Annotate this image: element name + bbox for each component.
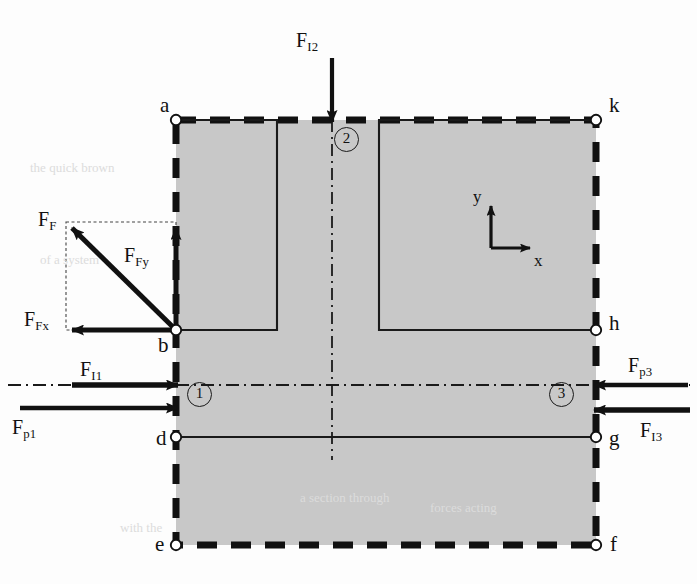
force-base: F [12,416,23,438]
node-k [591,115,601,125]
force-sub: p1 [23,427,36,441]
node-f [591,540,601,550]
force-base: F [38,208,49,230]
node-g [591,432,601,442]
force-label-Fp1: Fp1 [12,417,37,437]
free-body-diagram: the quick brown of a system a section th… [0,0,697,584]
ghost-text: forces acting [430,500,497,516]
force-label-FI2: FI2 [296,30,318,50]
axis-label-y: y [473,188,482,205]
section-marker-3: 3 [549,382,574,407]
force-label-Fp3: Fp3 [628,355,653,375]
node-b [171,325,181,335]
node-label-e: e [155,534,164,555]
force-base: F [296,29,307,51]
node-a [171,115,181,125]
node-e [171,540,181,550]
force-base: F [80,358,91,380]
force-sub: I1 [91,369,102,383]
body-fill [176,120,596,545]
force-sub: I2 [307,40,318,54]
force-sub: I3 [651,430,662,444]
node-h [591,325,601,335]
force-sub: F [49,219,56,233]
force-label-FF: FF [38,209,57,229]
force-sub: Fx [35,319,49,333]
node-label-b: b [158,335,169,356]
node-label-d: d [156,428,167,449]
node-label-g: g [609,428,620,449]
force-base: F [24,308,35,330]
ghost-text: of a system [40,252,99,268]
node-label-a: a [160,95,169,116]
node-label-k: k [609,95,620,116]
force-sub: Fy [135,255,149,269]
force-label-FI3: FI3 [640,420,662,440]
axis-label-x: x [534,252,543,269]
force-label-FFx: FFx [24,309,49,329]
ghost-text: the quick brown [30,160,114,176]
node-label-h: h [609,313,620,334]
force-label-FFy: FFy [124,245,149,265]
force-base: F [628,354,639,376]
section-marker-2: 2 [334,127,359,152]
force-label-FI1: FI1 [80,359,102,379]
node-d [171,432,181,442]
force-base: F [640,419,651,441]
section-marker-1: 1 [187,382,212,407]
force-sub: p3 [639,365,652,379]
force-base: F [124,244,135,266]
node-label-f: f [610,534,617,555]
ghost-text: a section through [300,490,390,506]
